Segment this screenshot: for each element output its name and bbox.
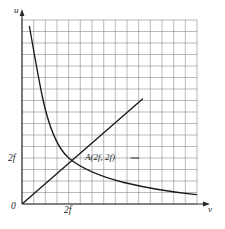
intersection-point-label: A(2f, 2f) bbox=[85, 153, 115, 162]
axis-arrowheads bbox=[20, 9, 210, 206]
graph-figure: u v 0 2f 2f A(2f, 2f) bbox=[0, 0, 225, 229]
x-tick-label-2f: 2f bbox=[64, 206, 71, 216]
y-axis-arrow bbox=[20, 9, 25, 16]
origin-label: 0 bbox=[11, 202, 16, 212]
y-tick-label-2f: 2f bbox=[8, 154, 15, 164]
identity-line bbox=[23, 99, 143, 203]
x-axis-label: v bbox=[208, 205, 212, 214]
grid-lines bbox=[22, 20, 197, 204]
plot-canvas bbox=[0, 0, 225, 229]
axis-lines bbox=[22, 14, 205, 204]
y-axis-label: u bbox=[14, 6, 19, 15]
